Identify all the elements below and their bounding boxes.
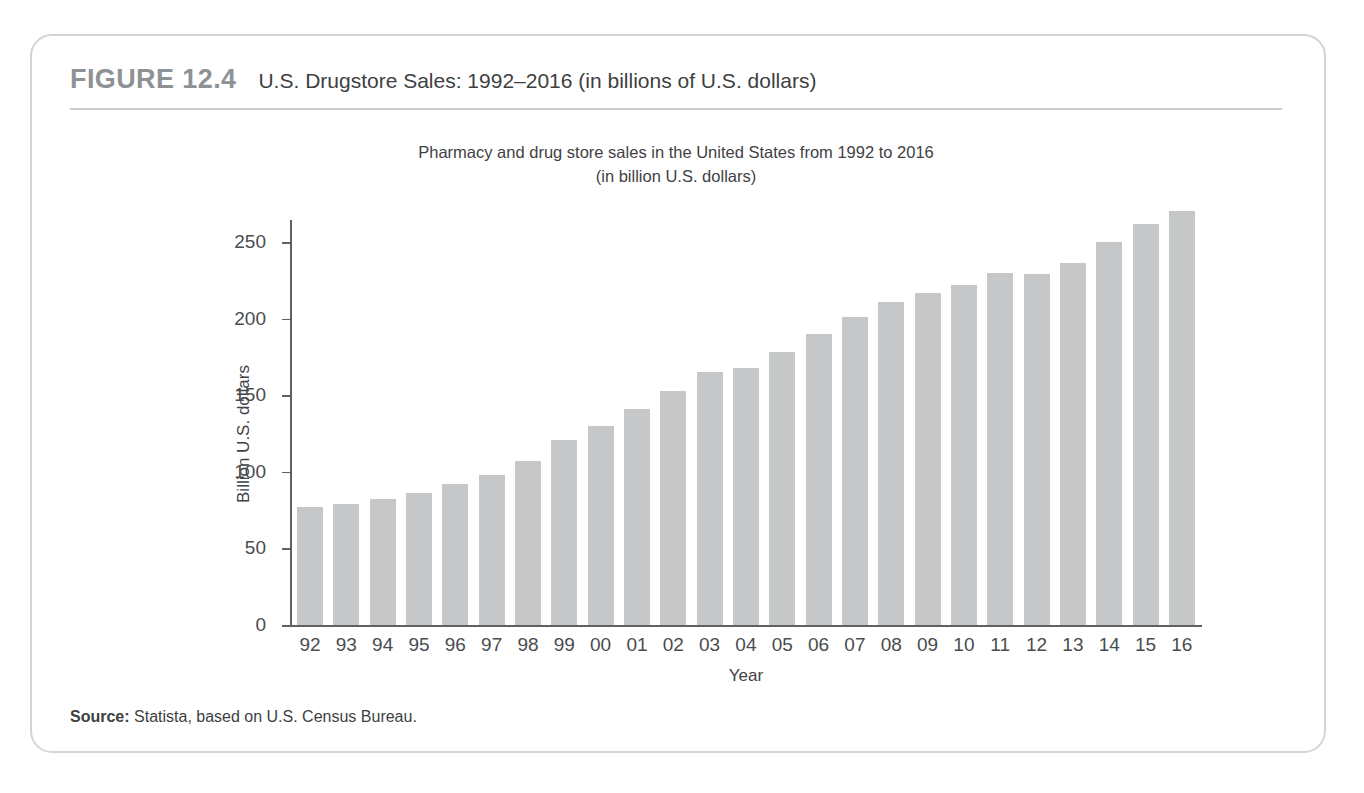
bar-slot — [1096, 242, 1122, 625]
bar-slot — [1060, 242, 1086, 625]
x-tick-label: 07 — [842, 634, 868, 656]
bar-slot — [987, 242, 1013, 625]
bar — [1060, 263, 1086, 625]
bar-slot — [370, 242, 396, 625]
bar — [987, 273, 1013, 625]
bar-slot — [551, 242, 577, 625]
bar — [370, 499, 396, 625]
bar-slot — [806, 242, 832, 625]
bar — [806, 334, 832, 625]
x-tick-label: 16 — [1169, 634, 1195, 656]
bar — [1024, 274, 1050, 625]
bar — [915, 293, 941, 625]
figure-number: FIGURE 12.4 — [70, 64, 236, 95]
chart-subtitle: (in billion U.S. dollars) — [70, 164, 1282, 188]
bar-slot — [515, 242, 541, 625]
y-tick-label: 100 — [234, 460, 266, 482]
bar — [660, 391, 686, 625]
x-tick-label: 11 — [987, 634, 1013, 656]
chart-title-block: Pharmacy and drug store sales in the Uni… — [70, 140, 1282, 188]
bar — [297, 507, 323, 625]
bar-slot — [1024, 242, 1050, 625]
source-text: Statista, based on U.S. Census Bureau. — [130, 708, 417, 725]
x-tick-label: 95 — [406, 634, 432, 656]
bar — [551, 440, 577, 625]
bar-slot — [479, 242, 505, 625]
bar-slot — [915, 242, 941, 625]
y-tick: 0 — [282, 625, 291, 627]
figure-header: FIGURE 12.4 U.S. Drugstore Sales: 1992–2… — [70, 64, 1280, 95]
bar — [1133, 224, 1159, 625]
bar-slot — [1169, 242, 1195, 625]
bar-slot — [878, 242, 904, 625]
x-axis-line — [290, 625, 1202, 627]
x-tick-label: 97 — [479, 634, 505, 656]
y-tick-label: 0 — [255, 614, 266, 636]
source-note: Source: Statista, based on U.S. Census B… — [70, 708, 417, 726]
x-tick-label: 98 — [515, 634, 541, 656]
bar — [406, 493, 432, 625]
x-tick-label: 00 — [588, 634, 614, 656]
x-tick-label: 12 — [1024, 634, 1050, 656]
bar — [479, 475, 505, 625]
bar-group — [291, 242, 1201, 625]
bar — [1169, 211, 1195, 625]
y-tick: 250 — [282, 242, 291, 244]
x-tick-label: 15 — [1133, 634, 1159, 656]
x-tick-label: 96 — [442, 634, 468, 656]
bar — [733, 368, 759, 625]
x-tick-label: 92 — [297, 634, 323, 656]
bar — [442, 484, 468, 625]
bar-slot — [333, 242, 359, 625]
x-tick-label: 10 — [951, 634, 977, 656]
bar — [588, 426, 614, 625]
bar — [878, 302, 904, 625]
header-divider — [70, 108, 1282, 110]
y-tick: 50 — [282, 548, 291, 550]
x-axis-title: Year — [291, 666, 1201, 686]
bar-slot — [951, 242, 977, 625]
bar-slot — [442, 242, 468, 625]
x-tick-label: 93 — [333, 634, 359, 656]
x-tick-label: 99 — [551, 634, 577, 656]
bar — [951, 285, 977, 625]
x-tick-label: 06 — [806, 634, 832, 656]
y-tick-label: 200 — [234, 307, 266, 329]
y-tick: 200 — [282, 319, 291, 321]
bar — [624, 409, 650, 625]
x-tick-label: 09 — [915, 634, 941, 656]
y-tick-label: 150 — [234, 384, 266, 406]
bar-slot — [697, 242, 723, 625]
bar — [697, 372, 723, 625]
x-tick-label: 04 — [733, 634, 759, 656]
plot-region: Billion U.S. dollars 050100150200250 929… — [291, 242, 1201, 625]
bar-slot — [624, 242, 650, 625]
bar-slot — [588, 242, 614, 625]
y-tick-label: 50 — [245, 537, 266, 559]
bar-slot — [297, 242, 323, 625]
y-tick-label: 250 — [234, 231, 266, 253]
x-tick-label-group: 9293949596979899000102030405060708091011… — [291, 634, 1201, 656]
bar — [769, 352, 795, 625]
bar — [333, 504, 359, 625]
bar — [515, 461, 541, 625]
x-tick-label: 94 — [370, 634, 396, 656]
bar-slot — [769, 242, 795, 625]
bar — [842, 317, 868, 625]
bar — [1096, 242, 1122, 625]
x-tick-label: 05 — [769, 634, 795, 656]
bar-slot — [842, 242, 868, 625]
y-tick: 150 — [282, 395, 291, 397]
x-tick-label: 08 — [878, 634, 904, 656]
bar-slot — [660, 242, 686, 625]
figure-card: FIGURE 12.4 U.S. Drugstore Sales: 1992–2… — [30, 34, 1326, 753]
x-tick-label: 03 — [697, 634, 723, 656]
source-label: Source: — [70, 708, 130, 725]
figure-title: U.S. Drugstore Sales: 1992–2016 (in bill… — [258, 69, 816, 93]
chart-area: Pharmacy and drug store sales in the Uni… — [70, 124, 1282, 704]
bar-slot — [1133, 242, 1159, 625]
y-tick: 100 — [282, 472, 291, 474]
x-tick-label: 02 — [660, 634, 686, 656]
x-tick-label: 13 — [1060, 634, 1086, 656]
bar-slot — [733, 242, 759, 625]
